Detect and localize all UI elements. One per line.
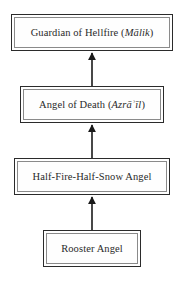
node-angel-of-death-label: Angel of Death (Azrāʾīl) <box>39 99 145 111</box>
node-guardian-transliteration: Mālik <box>125 27 150 38</box>
node-half-fire-half-snow-angel: Half-Fire-Half-Snow Angel <box>14 158 170 195</box>
node-death-transliteration: Azrāʾīl <box>112 99 142 110</box>
node-half-fire-half-snow-angel-inner: Half-Fire-Half-Snow Angel <box>17 161 167 192</box>
angel-hierarchy-diagram: Guardian of Hellfire (Mālik) Angel of De… <box>0 0 184 283</box>
node-angel-of-death-inner: Angel of Death (Azrāʾīl) <box>23 89 161 120</box>
node-guardian-of-hellfire-label: Guardian of Hellfire (Mālik) <box>31 27 154 39</box>
node-death-close-paren: ) <box>141 99 145 110</box>
node-guardian-of-hellfire-inner: Guardian of Hellfire (Mālik) <box>14 17 170 48</box>
node-guardian-of-hellfire: Guardian of Hellfire (Mālik) <box>11 14 173 51</box>
node-death-title: Angel of Death <box>39 99 105 110</box>
node-rooster-angel-label: Rooster Angel <box>61 243 123 255</box>
node-angel-of-death: Angel of Death (Azrāʾīl) <box>20 86 164 123</box>
node-guardian-title: Guardian of Hellfire <box>31 27 119 38</box>
node-rooster-angel: Rooster Angel <box>43 230 141 267</box>
node-guardian-close-paren: ) <box>150 27 154 38</box>
node-half-fire-half-snow-angel-label: Half-Fire-Half-Snow Angel <box>33 171 152 183</box>
node-rooster-angel-inner: Rooster Angel <box>46 233 138 264</box>
